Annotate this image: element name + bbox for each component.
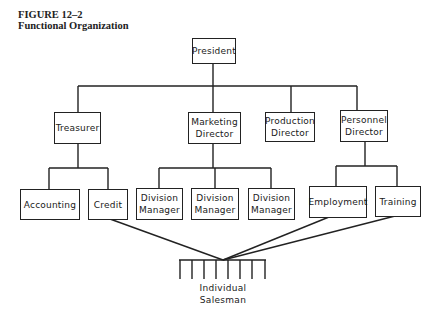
node-label-line2: Manager: [195, 204, 236, 216]
node-accounting: Accounting: [20, 189, 80, 220]
node-division-manager-3: Division Manager: [248, 188, 295, 220]
node-label-line2: Salesman: [183, 294, 263, 306]
node-label: Credit: [94, 199, 122, 211]
node-label: Training: [379, 196, 416, 208]
node-treasurer: Treasurer: [54, 112, 101, 144]
node-label: Treasurer: [56, 122, 100, 134]
node-label-line1: Division: [141, 192, 178, 204]
node-president: President: [192, 38, 236, 64]
node-division-manager-1: Division Manager: [136, 188, 183, 220]
node-label: President: [192, 45, 236, 57]
node-label-line2: Director: [345, 126, 383, 138]
node-label-line1: Individual: [183, 282, 263, 294]
node-label: Accounting: [24, 199, 76, 211]
node-production-director: Production Director: [265, 112, 315, 142]
node-label-line1: Division: [196, 192, 233, 204]
node-label-line2: Manager: [251, 204, 292, 216]
node-credit: Credit: [88, 189, 128, 220]
node-label: Employment: [308, 196, 367, 208]
node-label-line1: Personnel: [341, 114, 387, 126]
node-division-manager-2: Division Manager: [191, 188, 239, 220]
node-label-line2: Director: [196, 128, 234, 140]
node-label-line1: Production: [265, 115, 315, 127]
node-employment: Employment: [309, 186, 367, 218]
node-label-line1: Division: [253, 192, 290, 204]
node-individual-salesman: Individual Salesman: [183, 282, 263, 306]
node-label-line1: Marketing: [191, 116, 238, 128]
node-label-line2: Director: [271, 127, 309, 139]
node-training: Training: [375, 186, 421, 217]
node-marketing-director: Marketing Director: [188, 112, 241, 144]
node-label-line2: Manager: [139, 204, 180, 216]
node-personnel-director: Personnel Director: [340, 110, 388, 142]
